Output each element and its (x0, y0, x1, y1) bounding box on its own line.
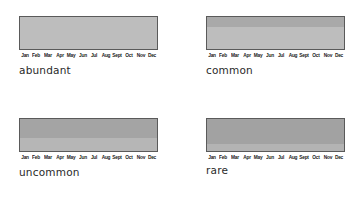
month-label: Mar (229, 154, 242, 160)
panel-rare: JanFebMarAprMayJunJulAugSeptOctNovDec ra… (206, 118, 345, 176)
month-label: Oct (123, 154, 136, 160)
month-label: May (65, 154, 78, 160)
panel-label-common: common (206, 64, 345, 76)
month-label: Mar (42, 52, 55, 58)
panel-uncommon: JanFebMarAprMayJunJulAugSeptOctNovDec un… (19, 118, 158, 178)
abundance-band (20, 17, 157, 49)
abundance-band (20, 119, 157, 138)
panel-label-rare: rare (206, 164, 345, 176)
month-label: Dec (333, 52, 346, 58)
abundance-bar-uncommon (19, 118, 158, 152)
panel-label-abundant: abundant (19, 64, 158, 76)
month-label: Dec (146, 154, 159, 160)
abundance-bar-abundant (19, 16, 158, 50)
month-label: Oct (310, 52, 323, 58)
month-label: Oct (123, 52, 136, 58)
abundance-band (207, 119, 344, 144)
month-axis: JanFebMarAprMayJunJulAugSeptOctNovDec (206, 154, 345, 163)
panel-abundant: JanFebMarAprMayJunJulAugSeptOctNovDec ab… (19, 16, 158, 76)
month-label: May (65, 52, 78, 58)
month-label: May (252, 52, 265, 58)
abundance-bar-rare (206, 118, 345, 152)
abundance-band (207, 27, 344, 49)
month-label: Mar (229, 52, 242, 58)
abundance-band (20, 138, 157, 151)
abundance-band (207, 144, 344, 151)
month-axis: JanFebMarAprMayJunJulAugSeptOctNovDec (206, 52, 345, 61)
month-label: Mar (42, 154, 55, 160)
month-label: Dec (333, 154, 346, 160)
abundance-band (207, 17, 344, 27)
month-axis: JanFebMarAprMayJunJulAugSeptOctNovDec (19, 52, 158, 61)
panel-label-uncommon: uncommon (19, 166, 158, 178)
month-label: Dec (146, 52, 159, 58)
month-label: May (252, 154, 265, 160)
abundance-bar-common (206, 16, 345, 50)
month-axis: JanFebMarAprMayJunJulAugSeptOctNovDec (19, 154, 158, 163)
panel-common: JanFebMarAprMayJunJulAugSeptOctNovDec co… (206, 16, 345, 76)
month-label: Oct (310, 154, 323, 160)
